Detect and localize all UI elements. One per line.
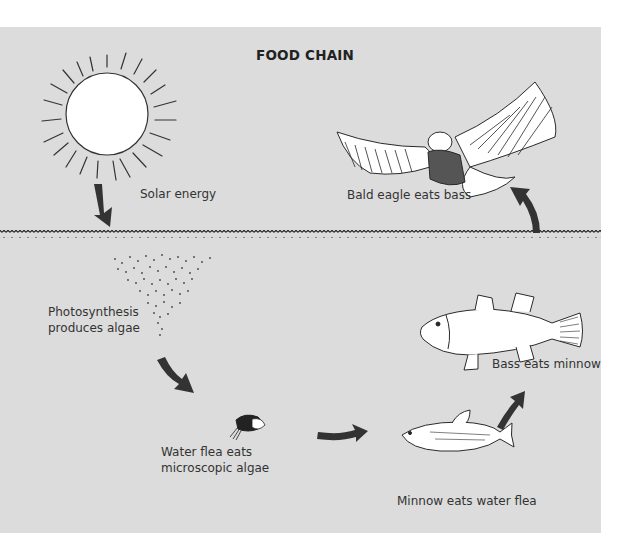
label-bass: Bass eats minnow <box>492 357 601 372</box>
label-flea-line1: Water flea eats <box>161 445 252 460</box>
diagram-title: FOOD CHAIN <box>256 47 354 63</box>
label-minnow: Minnow eats water flea <box>397 494 537 509</box>
label-solar-energy: Solar energy <box>140 187 216 202</box>
arrow-solar-icon <box>94 184 112 227</box>
label-bald-eagle: Bald eagle eats bass <box>347 188 471 203</box>
label-flea-line2: microscopic algae <box>161 461 269 476</box>
diagram-panel: FOOD CHAIN Solar energy Bald eagle eats … <box>0 27 601 533</box>
sun-icon <box>42 53 176 180</box>
label-algae-line2: produces algae <box>48 321 140 336</box>
arrow-to-eagle-icon <box>510 187 540 233</box>
illustration-layer <box>0 27 601 533</box>
arrow-to-flea-icon <box>157 357 194 393</box>
minnow-icon <box>402 410 514 451</box>
arrow-to-minnow-icon <box>317 424 368 442</box>
water-flea-icon <box>230 415 265 440</box>
bald-eagle-icon <box>337 82 556 197</box>
label-algae-line1: Photosynthesis <box>48 305 139 320</box>
water-surface-line <box>0 230 601 238</box>
